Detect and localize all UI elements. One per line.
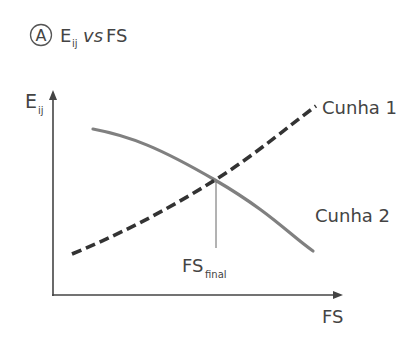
axes: E ij FS xyxy=(25,90,343,327)
fs-final-sub: final xyxy=(205,269,227,280)
panel-title: E ij vs FS xyxy=(60,25,127,49)
legend-cunha-1: Cunha 1 xyxy=(322,97,397,118)
x-axis-label: FS xyxy=(322,306,343,327)
panel-letter: A xyxy=(36,26,47,45)
y-axis-label-sub: ij xyxy=(38,105,44,116)
fs-final-main: FS xyxy=(182,255,203,276)
panel-marker: A xyxy=(31,25,52,46)
curve-cunha-1 xyxy=(72,106,316,254)
diagram-canvas: A E ij vs FS E ij FS FS final Cunha 1 Cu… xyxy=(0,0,417,345)
y-axis-label-main: E xyxy=(25,90,37,112)
y-axis-arrow-icon xyxy=(49,90,57,100)
title-vs: vs xyxy=(83,25,103,46)
legend-cunha-2: Cunha 2 xyxy=(315,205,390,226)
x-axis-arrow-icon xyxy=(333,291,343,299)
title-sub: ij xyxy=(72,38,78,49)
title-main: E xyxy=(60,25,71,46)
title-end: FS xyxy=(106,25,127,46)
curve-cunha-2 xyxy=(93,129,313,251)
